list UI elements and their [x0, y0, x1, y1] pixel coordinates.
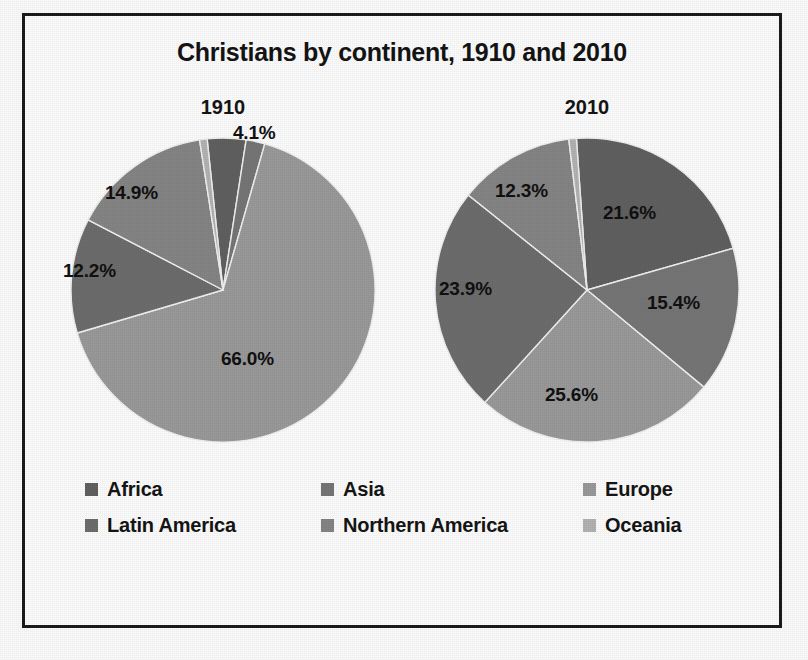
pie-data-label: 66.0% [221, 348, 274, 370]
legend-swatch-icon [321, 483, 334, 496]
legend-swatch-icon [583, 483, 596, 496]
pie-caption-2010: 2010 [417, 96, 757, 119]
pie-data-label: 12.3% [495, 180, 548, 202]
pie-chart-2010: 2010 12.3%21.6%15.4%23.9%25.6% [417, 96, 757, 456]
pie-data-label: 25.6% [545, 384, 598, 406]
legend-swatch-icon [85, 519, 98, 532]
legend-label: Asia [343, 478, 384, 501]
scanned-page: Christians by continent, 1910 and 2010 1… [0, 0, 808, 660]
chart-title: Christians by continent, 1910 and 2010 [25, 38, 779, 67]
pie-data-label: 12.2% [63, 260, 116, 282]
legend-item-latin-america[interactable]: Latin America [85, 514, 321, 537]
legend-label: Oceania [605, 514, 681, 537]
legend-swatch-icon [321, 519, 334, 532]
pie-svg-wrap-1910 [53, 130, 393, 450]
legend-item-northern-america[interactable]: Northern America [321, 514, 583, 537]
pie-caption-1910: 1910 [53, 96, 393, 119]
legend-item-africa[interactable]: Africa [85, 478, 321, 501]
pie-data-label: 15.4% [647, 292, 700, 314]
legend-item-oceania[interactable]: Oceania [583, 514, 725, 537]
pie-data-label: 23.9% [439, 278, 492, 300]
legend-item-europe[interactable]: Europe [583, 478, 725, 501]
pie-data-label: 4.1% [233, 122, 276, 144]
chart-frame: Christians by continent, 1910 and 2010 1… [22, 13, 782, 628]
chart-legend: AfricaAsiaEuropeLatin AmericaNorthern Am… [85, 471, 725, 543]
legend-item-asia[interactable]: Asia [321, 478, 583, 501]
legend-swatch-icon [85, 483, 98, 496]
legend-label: Latin America [107, 514, 236, 537]
pie-data-label: 14.9% [105, 182, 158, 204]
legend-swatch-icon [583, 519, 596, 532]
legend-label: Northern America [343, 514, 508, 537]
legend-label: Africa [107, 478, 163, 501]
pie-chart-1910: 1910 4.1%14.9%12.2%66.0% [53, 96, 393, 456]
pie-graphic-1910 [53, 130, 393, 450]
pie-data-label: 21.6% [603, 202, 656, 224]
legend-label: Europe [605, 478, 673, 501]
